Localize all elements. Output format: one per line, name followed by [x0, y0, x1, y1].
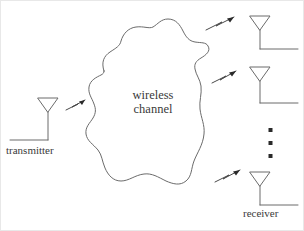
- receiver-label: receiver: [243, 207, 278, 219]
- wireless-channel-label-line1: wireless: [113, 88, 193, 102]
- wireless-channel-figure: transmitter receiver wireless channel: [0, 0, 304, 231]
- ellipsis-dot-3: [269, 154, 273, 158]
- ellipsis-dot-1: [269, 128, 273, 132]
- ellipsis-dot-2: [269, 141, 273, 145]
- wireless-channel-label-line2: channel: [113, 102, 193, 116]
- transmitter-label: transmitter: [6, 144, 54, 156]
- wireless-channel-label: wireless channel: [113, 88, 193, 116]
